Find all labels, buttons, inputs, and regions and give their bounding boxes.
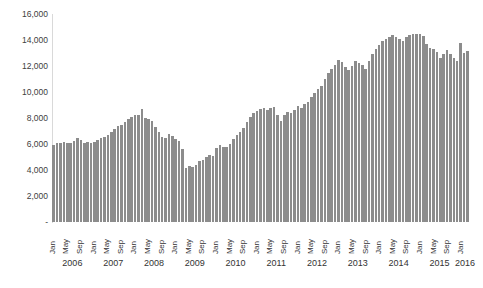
bar (419, 34, 422, 223)
bar (422, 36, 425, 222)
x-axis-tick-label: Jan (334, 241, 342, 254)
bar (256, 111, 259, 222)
bar (181, 149, 184, 222)
bar (168, 134, 171, 222)
bar (402, 41, 405, 222)
bar (344, 67, 347, 222)
y-axis-tick-label: - (0, 218, 48, 227)
x-axis-year-label: 2015 (429, 258, 449, 269)
bar (73, 141, 76, 222)
x-axis-tick-label: Jan (294, 241, 302, 254)
bar (398, 39, 401, 222)
bar (341, 62, 344, 222)
bar (466, 51, 469, 222)
bar (436, 52, 439, 222)
bar (188, 166, 191, 222)
bar (361, 65, 364, 222)
bar (103, 137, 106, 222)
x-axis-tick-label: Sep (76, 240, 84, 254)
bar (266, 110, 269, 222)
x-axis-tick-label: May (185, 239, 193, 254)
bar-chart: 16,00014,00012,00010,0008,0006,0004,0002… (0, 0, 483, 288)
bar (80, 140, 83, 222)
bar (161, 137, 164, 222)
bar (86, 142, 89, 222)
x-axis-tick-label: Jan (49, 241, 57, 254)
x-axis-year-label: 2006 (62, 258, 82, 269)
bar (375, 49, 378, 222)
x-axis-tick-label: Jan (130, 241, 138, 254)
bar (408, 35, 411, 222)
x-axis-tick-label: May (307, 239, 315, 254)
bar (453, 58, 456, 222)
x-axis-year-label: 2007 (103, 258, 123, 269)
bar (130, 117, 133, 222)
x-axis-year-label: 2011 (267, 258, 286, 269)
bar (459, 43, 462, 222)
bar (174, 139, 177, 222)
bar (395, 37, 398, 222)
bar (276, 115, 279, 222)
bar (354, 61, 357, 222)
bar (178, 141, 181, 222)
bar (300, 108, 303, 222)
bar (144, 118, 147, 222)
x-axis-month-labels: JanMaySepJanMaySepJanMaySepJanMaySepJanM… (52, 224, 470, 254)
bar (107, 135, 110, 222)
bar (134, 115, 137, 222)
bar (307, 102, 310, 222)
bar (290, 113, 293, 222)
x-axis-tick-label: Jan (171, 241, 179, 254)
bar (205, 157, 208, 222)
bar (242, 128, 245, 222)
bar (327, 73, 330, 223)
x-axis-tick-label: May (266, 239, 274, 254)
bar (56, 143, 59, 222)
bar (273, 107, 276, 222)
bar (222, 147, 225, 222)
bar (69, 143, 72, 222)
bar (412, 34, 415, 223)
y-axis-tick-label: 4,000 (0, 166, 48, 175)
bar (320, 86, 323, 223)
x-axis-tick-label: Jan (90, 241, 98, 254)
bar (415, 34, 418, 222)
x-axis-year-label: 2012 (307, 258, 327, 269)
x-axis-tick-label: Jan (212, 241, 220, 254)
bar (198, 161, 201, 222)
y-axis-tick-label: 2,000 (0, 192, 48, 201)
bar (232, 139, 235, 222)
x-axis-year-label: 2013 (348, 258, 368, 269)
x-axis-year-label: 2009 (185, 258, 205, 269)
x-axis-tick-label: Sep (198, 240, 206, 254)
bar (195, 165, 198, 222)
bar (124, 122, 127, 222)
x-axis-tick-label: Sep (362, 240, 370, 254)
bar (66, 143, 69, 222)
bar (212, 156, 215, 222)
bar (249, 117, 252, 222)
y-axis-tick-label: 10,000 (0, 88, 48, 97)
bar (120, 125, 123, 223)
bar (93, 142, 96, 222)
bar (208, 155, 211, 222)
x-axis-tick-label: Jan (253, 241, 261, 254)
bar (330, 69, 333, 222)
bar (429, 48, 432, 222)
bar (117, 126, 120, 222)
bar (229, 144, 232, 222)
bar (334, 65, 337, 222)
bar (90, 143, 93, 222)
bar (225, 147, 228, 222)
bar (171, 136, 174, 222)
bar (100, 138, 103, 222)
x-axis-tick-label: Jan (375, 241, 383, 254)
bar (185, 168, 188, 222)
bar (283, 115, 286, 222)
bar (252, 113, 255, 222)
x-axis-tick-label: Sep (158, 240, 166, 254)
x-axis-tick-label: Sep (402, 240, 410, 254)
bar (154, 127, 157, 222)
x-axis-tick-label: May (348, 239, 356, 254)
bar (358, 63, 361, 222)
